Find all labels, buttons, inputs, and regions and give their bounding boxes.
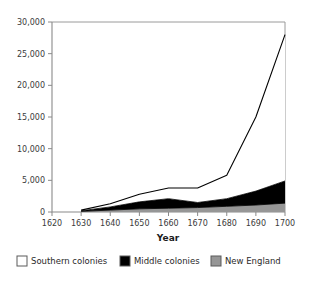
- y-tick-label: 30,000: [17, 18, 45, 27]
- y-tick-label: 15,000: [17, 113, 45, 122]
- x-tick-label: 1690: [246, 219, 266, 228]
- legend-swatch-new-england: [211, 256, 221, 266]
- x-tick-label: 1680: [217, 219, 237, 228]
- chart-legend: Southern coloniesMiddle coloniesNew Engl…: [17, 256, 281, 266]
- x-tick-label: 1700: [275, 219, 295, 228]
- x-tick-label: 1630: [71, 219, 91, 228]
- x-tick-label: 1620: [42, 219, 62, 228]
- chart-figure: 05,00010,00015,00020,00025,00030,000 162…: [0, 0, 309, 284]
- x-tick-label: 1650: [129, 219, 149, 228]
- x-tick-label: 1640: [100, 219, 120, 228]
- x-tick-label: 1660: [158, 219, 178, 228]
- y-tick-label: 25,000: [17, 50, 45, 59]
- stacked-area-chart: 05,00010,00015,00020,00025,00030,000 162…: [0, 0, 309, 284]
- legend-swatch-middle-colonies: [120, 256, 130, 266]
- x-axis-title: Year: [156, 233, 180, 243]
- legend-label-middle-colonies: Middle colonies: [134, 256, 200, 266]
- x-tick-label: 1670: [187, 219, 207, 228]
- legend-swatch-southern-colonies: [17, 256, 27, 266]
- legend-label-southern-colonies: Southern colonies: [31, 256, 108, 266]
- y-tick-label: 0: [40, 208, 45, 217]
- y-tick-label: 20,000: [17, 81, 45, 90]
- y-tick-label: 5,000: [22, 176, 45, 185]
- y-tick-label: 10,000: [17, 145, 45, 154]
- legend-label-new-england: New England: [225, 256, 281, 266]
